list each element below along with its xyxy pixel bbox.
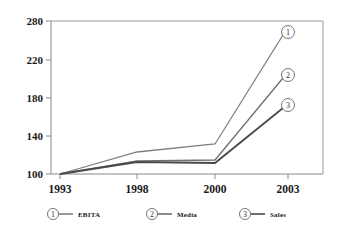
endpoint-marker-label-1: 1: [286, 28, 290, 37]
legend-marker-label-1: 1: [51, 210, 55, 219]
x-tick-marks: [60, 174, 288, 179]
y-tick-label-280: 280: [27, 15, 44, 27]
line-chart: 280 220 180 140 100 1993 1998 2000 2003: [0, 0, 340, 231]
x-tick-label-1998: 1998: [126, 183, 149, 195]
y-axis-labels: 280 220 180 140 100: [27, 15, 44, 180]
endpoint-marker-label-2: 2: [286, 71, 290, 80]
y-tick-label-220: 220: [27, 54, 44, 66]
frame-top-right: [51, 21, 323, 174]
chart-legend: 1 EBITA 2 Media 3 Sales: [48, 209, 287, 220]
legend-label-media: Media: [177, 211, 197, 219]
y-tick-label-140: 140: [27, 130, 44, 142]
legend-marker-label-2: 2: [150, 210, 154, 219]
endpoint-marker-media: 2: [282, 69, 295, 82]
legend-label-ebita: EBITA: [78, 211, 100, 219]
x-tick-label-1993: 1993: [49, 183, 72, 195]
endpoint-marker-sales: 3: [282, 99, 295, 112]
series-line-media: [60, 78, 283, 174]
plot-frame: [51, 21, 323, 174]
y-tick-marks: [46, 21, 51, 174]
x-axis-labels: 1993 1998 2000 2003: [49, 183, 300, 195]
x-tick-label-2000: 2000: [204, 183, 227, 195]
endpoint-marker-ebita: 1: [282, 26, 295, 39]
series-line-ebita: [60, 35, 283, 174]
legend-label-sales: Sales: [270, 211, 286, 219]
legend-item-media[interactable]: 2 Media: [147, 209, 198, 220]
endpoint-marker-label-3: 3: [286, 101, 290, 110]
y-tick-label-100: 100: [27, 168, 44, 180]
chart-canvas: 280 220 180 140 100 1993 1998 2000 2003: [0, 0, 340, 231]
legend-item-ebita[interactable]: 1 EBITA: [48, 209, 101, 220]
legend-marker-label-3: 3: [243, 210, 247, 219]
x-tick-label-2003: 2003: [277, 183, 300, 195]
legend-item-sales[interactable]: 3 Sales: [240, 209, 287, 220]
y-tick-label-180: 180: [27, 92, 44, 104]
